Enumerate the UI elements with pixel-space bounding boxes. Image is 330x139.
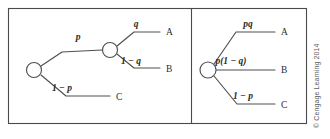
- node-root-right: [200, 62, 216, 78]
- panel-collapsed-tree: pq p(1 − q) 1 − p A B C: [200, 19, 288, 110]
- outcome-c-left: C: [116, 92, 122, 102]
- outcome-a-left: A: [166, 27, 173, 37]
- branch-p: [41, 50, 102, 66]
- label-probability-pq: pq: [242, 19, 253, 29]
- label-probability-p: p: [75, 32, 81, 42]
- tree-diagram-canvas: p q 1 − q 1 − p A B C pq p(1 − q) 1 − p …: [0, 0, 330, 139]
- outcome-c-right: C: [281, 100, 287, 110]
- panel-two-stage-tree: p q 1 − q 1 − p A B C: [27, 19, 174, 102]
- figure-border: [9, 9, 307, 124]
- label-probability-one-minus-q: 1 − q: [121, 56, 141, 66]
- outcome-a-right: A: [281, 27, 288, 37]
- node-root-left: [27, 63, 42, 78]
- branch-q: [117, 32, 160, 46]
- probability-tree-figure: p q 1 − q 1 − p A B C pq p(1 − q) 1 − p …: [0, 0, 330, 139]
- label-probability-p-one-minus-q: p(1 − q): [214, 56, 246, 67]
- copyright-credit: © Cengage Learning 2014: [313, 43, 321, 128]
- outcome-b-right: B: [281, 65, 287, 75]
- node-stage2: [103, 43, 118, 58]
- label-probability-one-minus-p-right: 1 − p: [233, 91, 253, 101]
- outcome-b-left: B: [166, 64, 172, 74]
- label-probability-q: q: [134, 19, 139, 29]
- label-probability-one-minus-p-left: 1 − p: [52, 83, 72, 93]
